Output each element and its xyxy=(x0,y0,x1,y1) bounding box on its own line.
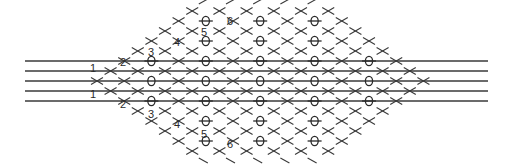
edge-stub xyxy=(253,0,262,4)
label-bottom-2: 2 xyxy=(120,98,126,110)
edge-stub xyxy=(308,0,317,4)
label-top-6: 6 xyxy=(227,15,233,27)
label-bottom-3: 3 xyxy=(148,108,154,120)
label-bottom-6: 6 xyxy=(227,138,233,150)
label-bottom-1: 1 xyxy=(90,88,96,100)
label-top-2: 2 xyxy=(120,56,126,68)
label-top-5: 5 xyxy=(201,26,207,38)
edge-stub xyxy=(199,158,208,163)
label-top-4: 4 xyxy=(174,36,180,48)
label-bottom-4: 4 xyxy=(174,118,180,130)
edge-stub xyxy=(226,158,235,163)
edge-stub xyxy=(199,0,208,4)
edge-stub xyxy=(308,158,317,163)
edge-stub xyxy=(280,158,289,163)
edge-stub xyxy=(280,0,289,4)
edge-stub xyxy=(253,158,262,163)
label-top-1: 1 xyxy=(90,62,96,74)
label-top-3: 3 xyxy=(148,46,154,58)
lattice-diagram: 1 2 3 4 5 6 1 2 3 4 5 6 xyxy=(0,0,513,164)
edge-stub xyxy=(226,0,235,4)
label-bottom-5: 5 xyxy=(201,128,207,140)
level-labels: 1 2 3 4 5 6 1 2 3 4 5 6 xyxy=(90,15,233,150)
